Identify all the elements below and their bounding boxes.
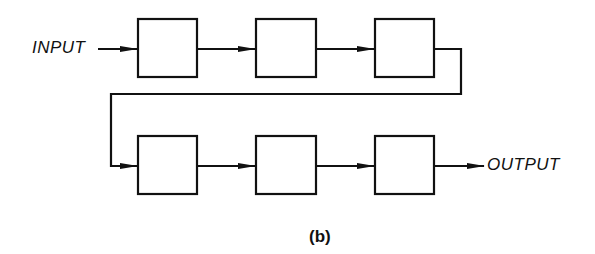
block-diagram (0, 0, 595, 254)
block-row2-2 (256, 136, 316, 194)
input-label: INPUT (32, 38, 86, 58)
block-row2-1 (138, 136, 197, 194)
block-row2-3 (375, 136, 434, 194)
block-row1-1 (138, 19, 197, 77)
output-label: OUTPUT (487, 155, 560, 175)
block-row1-2 (256, 19, 316, 77)
figure-caption: (b) (309, 227, 331, 247)
block-row1-3 (375, 19, 434, 77)
